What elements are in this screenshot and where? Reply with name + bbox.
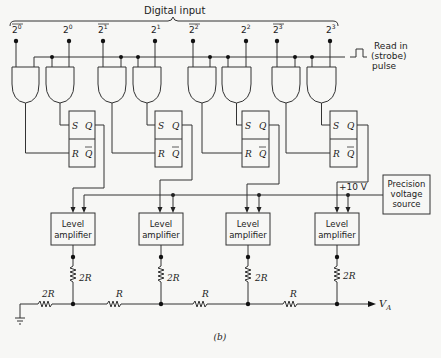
level-amplifier-2: Level amplifier <box>226 213 270 245</box>
and-gates <box>12 41 336 153</box>
reference-voltage-label: +10 V <box>339 182 368 192</box>
svg-text:Q: Q <box>347 149 355 159</box>
svg-text:amplifier: amplifier <box>54 230 92 240</box>
arrowheads <box>71 193 351 213</box>
level-amplifier-1: Level amplifier <box>139 213 183 245</box>
figure-caption: (b) <box>214 332 227 342</box>
and-gate-7 <box>307 41 336 125</box>
svg-text:amplifier: amplifier <box>142 230 180 240</box>
svg-text:voltage: voltage <box>391 189 423 199</box>
svg-text:S: S <box>245 121 251 131</box>
svg-text:2R: 2R <box>166 273 180 283</box>
input-label-5: 22 <box>241 23 251 35</box>
flip-flop-0: S Q R Q <box>69 111 95 167</box>
svg-text:Level: Level <box>62 219 84 229</box>
svg-text:S: S <box>158 121 164 131</box>
svg-text:2R: 2R <box>254 273 268 283</box>
svg-text:Read in: Read in <box>374 41 408 51</box>
ladder-nodes <box>71 255 376 307</box>
svg-text:20: 20 <box>12 23 22 35</box>
input-label-2: 21 <box>98 23 109 35</box>
input-brace <box>10 17 338 26</box>
flip-flop-3: S Q R Q <box>330 111 357 167</box>
precision-voltage-source: Precision voltage source <box>383 175 430 214</box>
svg-text:Level: Level <box>237 219 259 229</box>
svg-text:Level: Level <box>326 219 348 229</box>
svg-text:R: R <box>289 289 297 299</box>
and-gate-3 <box>133 41 161 125</box>
input-label-7: 23 <box>326 23 336 35</box>
and-gate-1 <box>46 41 74 125</box>
flip-flop-1: S Q R Q <box>155 111 182 167</box>
svg-text:S: S <box>72 121 78 131</box>
input-labels: 20 20 21 21 22 22 23 23 <box>12 23 336 35</box>
svg-text:Q: Q <box>172 121 180 131</box>
svg-text:source: source <box>392 199 420 209</box>
strobe-label: Read in (strobe) pulse <box>371 41 408 71</box>
svg-text:R: R <box>332 149 340 159</box>
svg-text:Q: Q <box>347 121 355 131</box>
level-amplifiers: Level amplifier Level amplifier Level am… <box>51 213 359 245</box>
input-label-4: 22 <box>189 23 200 35</box>
svg-text:pulse: pulse <box>372 61 397 71</box>
output-voltage-label: VA <box>379 298 391 312</box>
svg-text:Precision: Precision <box>388 179 426 189</box>
svg-text:R: R <box>115 289 123 299</box>
r-2r-ladder <box>15 245 368 324</box>
input-label-3: 21 <box>151 23 161 35</box>
svg-text:R: R <box>71 149 79 159</box>
svg-text:amplifier: amplifier <box>229 230 267 240</box>
and-gate-5 <box>222 41 251 125</box>
svg-text:Q: Q <box>259 149 267 159</box>
input-label-6: 23 <box>273 23 284 35</box>
svg-text:amplifier: amplifier <box>318 230 356 240</box>
svg-text:Q: Q <box>172 149 180 159</box>
svg-text:23: 23 <box>273 23 283 35</box>
svg-text:(strobe): (strobe) <box>371 51 407 61</box>
svg-text:Q: Q <box>85 149 93 159</box>
svg-text:21: 21 <box>151 23 161 35</box>
svg-text:Q: Q <box>85 121 93 131</box>
input-label-0: 20 <box>12 23 23 35</box>
svg-text:R: R <box>201 289 209 299</box>
level-amplifier-0: Level amplifier <box>51 213 95 245</box>
svg-text:22: 22 <box>189 23 199 35</box>
svg-text:R: R <box>157 149 165 159</box>
q-wiring <box>73 125 383 211</box>
level-amplifier-3: Level amplifier <box>315 213 359 245</box>
svg-text:2R: 2R <box>342 271 356 281</box>
svg-text:2R: 2R <box>41 289 55 299</box>
svg-text:S: S <box>333 121 339 131</box>
junction-dots-top <box>14 39 332 59</box>
svg-text:23: 23 <box>326 23 336 35</box>
svg-text:21: 21 <box>98 23 108 35</box>
svg-text:R: R <box>244 149 252 159</box>
svg-text:Q: Q <box>259 121 267 131</box>
digital-input-label: Digital input <box>144 5 205 16</box>
input-label-1: 20 <box>63 23 73 35</box>
dac-circuit-diagram: Digital input 20 20 21 21 22 22 23 23 Re… <box>0 0 441 358</box>
svg-text:Level: Level <box>150 219 172 229</box>
flip-flop-2: S Q R Q <box>242 111 269 167</box>
svg-text:20: 20 <box>63 23 73 35</box>
svg-text:2R: 2R <box>78 273 92 283</box>
svg-text:22: 22 <box>241 23 251 35</box>
